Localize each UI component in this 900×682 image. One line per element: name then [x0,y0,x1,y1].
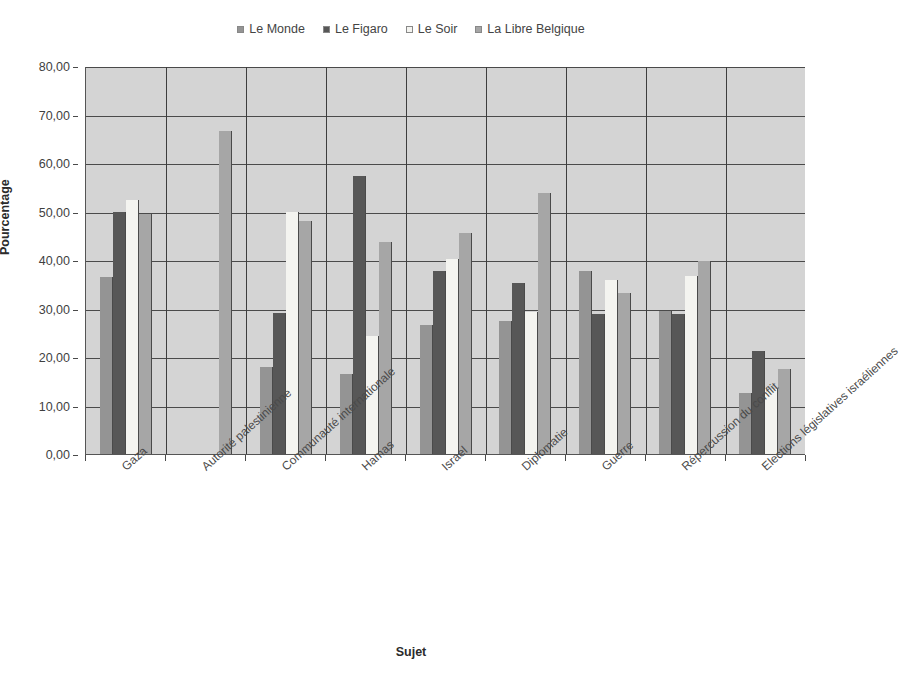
legend-label: Le Figaro [335,22,388,36]
legend-item-3[interactable]: La Libre Belgique [475,22,584,36]
bar-group [565,67,645,454]
bar[interactable] [525,312,538,454]
bar[interactable] [592,314,605,454]
y-tick-mark [73,310,78,311]
bar[interactable] [286,212,299,455]
bar[interactable] [512,283,525,454]
bar[interactable] [379,242,392,454]
bar[interactable] [659,311,672,454]
y-tick-mark [73,358,78,359]
y-tick-label: 60,00 [39,157,70,171]
y-tick-mark [73,213,78,214]
legend-label: La Libre Belgique [487,22,584,36]
bar-group [485,67,565,454]
bar[interactable] [420,325,433,454]
legend-swatch-icon [475,26,482,33]
y-tick-mark [73,407,78,408]
y-tick-mark [73,164,78,165]
bar[interactable] [685,276,698,454]
x-tick-mark [325,455,326,461]
y-tick-label: 0,00 [46,448,70,462]
x-tick-mark [645,455,646,461]
plot-area [85,67,805,455]
x-tick-mark [405,455,406,461]
legend-swatch-icon [323,26,330,33]
legend-swatch-icon [406,26,413,33]
bar[interactable] [273,313,286,454]
plot-wrapper [85,67,805,455]
bar-series-container [86,67,805,454]
x-tick-mark [85,455,86,461]
bar[interactable] [113,212,126,455]
bar-group [166,67,246,454]
y-tick-label: 70,00 [39,109,70,123]
y-tick-label: 30,00 [39,303,70,317]
y-tick-mark [73,67,78,68]
x-tick-mark [165,455,166,461]
y-tick-mark [73,116,78,117]
bar[interactable] [433,271,446,454]
legend-label: Le Soir [418,22,458,36]
legend-swatch-icon [237,26,244,33]
bar[interactable] [139,214,152,454]
bar[interactable] [299,221,312,454]
y-tick-mark [73,261,78,262]
bar-group [406,67,486,454]
bar[interactable] [219,131,232,454]
y-tick-label: 40,00 [39,254,70,268]
legend-label: Le Monde [249,22,305,36]
y-axis: 0,0010,0020,0030,0040,0050,0060,0070,008… [0,67,78,455]
bar[interactable] [579,271,592,454]
x-tick-mark [485,455,486,461]
y-tick-label: 10,00 [39,400,70,414]
x-tick-mark [565,455,566,461]
y-tick-label: 20,00 [39,351,70,365]
bar[interactable] [605,280,618,454]
chart-legend: Le MondeLe FigaroLe SoirLa Libre Belgiqu… [0,22,822,36]
legend-item-0[interactable]: Le Monde [237,22,305,36]
bar[interactable] [672,314,685,454]
bar[interactable] [446,259,459,454]
bar[interactable] [100,277,113,454]
x-tick-mark [245,455,246,461]
y-axis-title: Pourcentage [0,179,12,255]
x-axis-title: Sujet [0,645,822,659]
y-tick-label: 80,00 [39,60,70,74]
bar-group [645,67,725,454]
x-tick-mark [725,455,726,461]
bar[interactable] [126,200,139,454]
legend-item-2[interactable]: Le Soir [406,22,458,36]
bar[interactable] [499,321,512,454]
legend-item-1[interactable]: Le Figaro [323,22,388,36]
bar-group [86,67,166,454]
x-axis-labels: GazaAutorité palestinienneCommunauté int… [85,463,805,598]
bar[interactable] [459,233,472,454]
bar[interactable] [618,293,631,455]
bar[interactable] [698,261,711,454]
x-tick-mark [805,455,806,461]
y-tick-label: 50,00 [39,206,70,220]
y-tick-mark [73,455,78,456]
bar[interactable] [538,193,551,454]
